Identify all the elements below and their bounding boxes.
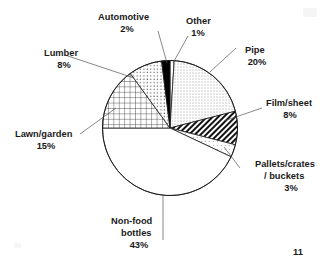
pie-chart-figure: 11 xyxy=(0,0,331,263)
label-non-food-bottles: Non-food bottles 43% xyxy=(111,216,153,250)
label-non-food-pct: 43% xyxy=(130,240,149,250)
leader-automotive xyxy=(158,31,167,63)
label-pipe-name: Pipe xyxy=(245,45,265,55)
pie-chart-svg: 11 xyxy=(0,0,331,263)
label-other: Other 1% xyxy=(186,16,211,38)
leader-pipe xyxy=(210,48,236,72)
label-lawn-garden: Lawn/garden 15% xyxy=(15,129,73,151)
label-film-sheet: Film/sheet 8% xyxy=(266,98,312,120)
label-automotive-pct: 2% xyxy=(120,24,134,34)
label-lumber: Lumber 8% xyxy=(44,48,78,70)
label-automotive-name: Automotive xyxy=(98,12,149,22)
pie-slices xyxy=(102,60,237,195)
leader-other xyxy=(173,36,188,63)
label-lumber-pct: 8% xyxy=(57,60,71,70)
label-lumber-name: Lumber xyxy=(44,48,78,58)
label-other-name: Other xyxy=(186,16,211,26)
label-lawn-garden-name: Lawn/garden xyxy=(15,129,73,139)
label-pallets-pct: 3% xyxy=(284,183,298,193)
label-other-pct: 1% xyxy=(191,28,205,38)
label-non-food-line1: Non-food xyxy=(111,216,153,226)
label-pipe: Pipe 20% xyxy=(245,45,267,67)
label-non-food-line2: bottles xyxy=(121,228,151,238)
leader-lumber xyxy=(65,55,134,78)
label-film-sheet-pct: 8% xyxy=(283,110,297,120)
label-pallets-line2: / buckets xyxy=(264,171,304,181)
label-pallets-line1: Pallets/crates xyxy=(255,159,315,169)
label-film-sheet-name: Film/sheet xyxy=(266,98,312,108)
scan-artifact-top-right xyxy=(303,8,317,17)
scan-artifact-footnote: 11 xyxy=(293,247,303,257)
label-pipe-pct: 20% xyxy=(248,57,267,67)
scan-artifact-bottom-left xyxy=(14,243,21,248)
label-pallets-crates: Pallets/crates / buckets 3% xyxy=(255,159,315,193)
label-automotive: Automotive 2% xyxy=(98,12,149,34)
label-lawn-garden-pct: 15% xyxy=(37,141,56,151)
